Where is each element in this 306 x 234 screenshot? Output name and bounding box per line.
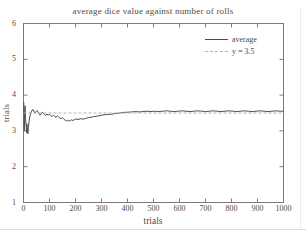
plot-area	[0, 0, 306, 234]
dashed-line-sample-icon	[205, 51, 228, 52]
y-tick-label: 6	[2, 19, 16, 28]
legend-entry-average: average	[205, 33, 257, 45]
legend-entry-reference: y = 3.5	[205, 45, 257, 57]
legend-label-average: average	[232, 35, 257, 44]
y-tick-label: 5	[2, 54, 16, 63]
y-axis-label: trials	[1, 83, 13, 143]
series-line-average	[24, 102, 284, 133]
x-tick-label: 1000	[269, 204, 299, 213]
legend: average y = 3.5	[205, 33, 257, 57]
window-bottom-edge-line	[0, 229, 306, 230]
legend-label-reference: y = 3.5	[232, 47, 255, 56]
y-tick-label: 2	[2, 162, 16, 171]
x-axis-label: trials	[23, 216, 283, 226]
chart-window: average dice value against number of rol…	[0, 0, 306, 234]
y-tick-label: 1	[2, 198, 16, 207]
solid-line-sample-icon	[205, 39, 228, 40]
window-right-edge-line	[300, 8, 301, 229]
